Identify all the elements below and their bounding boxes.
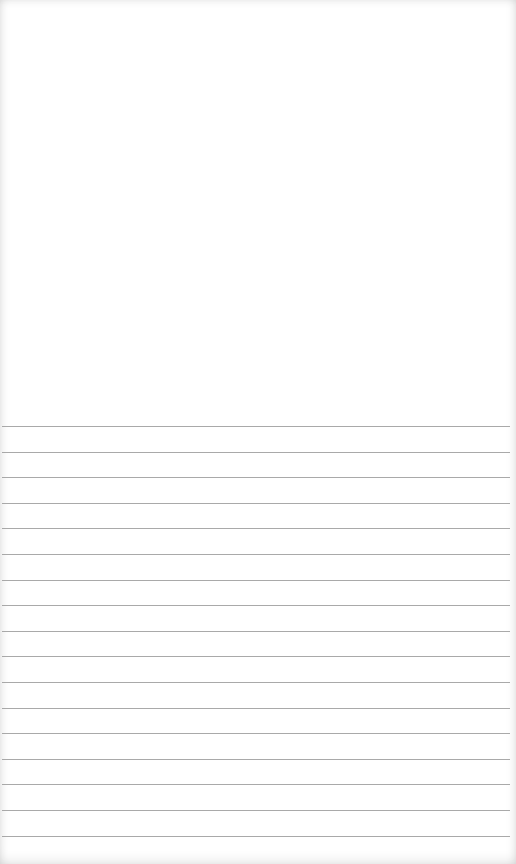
blank-header-area — [0, 0, 516, 420]
ruled-line — [2, 452, 510, 453]
ruled-line — [2, 784, 510, 785]
ruled-line — [2, 503, 510, 504]
ruled-line — [2, 810, 510, 811]
ruled-line — [2, 656, 510, 657]
ruled-line — [2, 631, 510, 632]
ruled-line — [2, 580, 510, 581]
ruled-line — [2, 426, 510, 427]
lined-paper-page — [0, 0, 516, 864]
ruled-line — [2, 528, 510, 529]
ruled-line — [2, 682, 510, 683]
ruled-line — [2, 733, 510, 734]
ruled-line — [2, 605, 510, 606]
ruled-line — [2, 759, 510, 760]
ruled-line — [2, 708, 510, 709]
ruled-line — [2, 836, 510, 837]
ruled-line — [2, 477, 510, 478]
ruled-line — [2, 554, 510, 555]
